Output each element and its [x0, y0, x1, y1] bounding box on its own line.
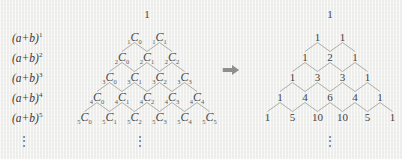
combination-cell: 2C2: [165, 50, 180, 65]
combination-cell: 4C2: [140, 90, 155, 105]
combination-cell: 3C2: [152, 70, 167, 85]
combination-r: 2: [164, 78, 167, 85]
combination-r: 0: [101, 98, 104, 105]
combination-cell: 3C3: [177, 70, 192, 85]
left-triangle-ellipsis: ⋮: [134, 135, 146, 147]
value-cell: 1: [365, 71, 371, 83]
value-cell: 3: [340, 71, 346, 83]
combination-cell: 4C4: [190, 90, 205, 105]
exponent-label-4: (a+b)4: [12, 92, 42, 104]
value-cell: 1: [265, 111, 271, 123]
value-cell: 5: [290, 111, 296, 123]
combination-r: 0: [139, 38, 142, 45]
exponent-label-3: (a+b)3: [12, 72, 42, 84]
combination-r: 5: [214, 118, 217, 125]
value-cell: 1: [302, 51, 308, 63]
combination-r: 4: [189, 118, 192, 125]
exponent-value: 4: [39, 91, 43, 99]
combination-r: 3: [164, 118, 167, 125]
combination-cell: 5C4: [177, 110, 192, 125]
exponent-value: 2: [39, 51, 43, 59]
combination-cell: 5C1: [102, 110, 117, 125]
combination-cell: 4C1: [115, 90, 130, 105]
value-cell: 1: [315, 31, 321, 43]
combination-cell: 2C0: [115, 50, 130, 65]
value-cell: 2: [327, 51, 333, 63]
combination-cell: 3C0: [102, 70, 117, 85]
combination-r: 0: [114, 78, 117, 85]
combination-cell: 5C0: [77, 110, 92, 125]
combination-cell: 5C2: [127, 110, 142, 125]
combination-cell: 5C3: [152, 110, 167, 125]
left-apex-value: 1: [144, 8, 150, 20]
combination-cell: 5C5: [202, 110, 217, 125]
value-cell: 1: [340, 31, 346, 43]
combination-r: 2: [176, 58, 179, 65]
exponent-value: 3: [39, 71, 43, 79]
right-apex-value: 1: [327, 8, 333, 20]
combination-r: 1: [126, 98, 129, 105]
combination-cell: 1C1: [152, 30, 167, 45]
combination-r: 2: [151, 98, 154, 105]
combination-r: 1: [139, 78, 142, 85]
value-cell: 5: [365, 111, 371, 123]
value-cell: 10: [337, 111, 348, 123]
value-cell: 4: [302, 91, 308, 103]
value-cell: 10: [312, 111, 323, 123]
combination-r: 1: [114, 118, 117, 125]
value-cell: 1: [352, 51, 358, 63]
combination-r: 3: [176, 98, 179, 105]
value-cell: 1: [390, 111, 396, 123]
exponent-label-2: (a+b)2: [12, 52, 42, 64]
value-cell: 1: [377, 91, 383, 103]
exponent-label-5: (a+b)5: [12, 112, 42, 124]
combination-cell: 3C1: [127, 70, 142, 85]
combination-r: 2: [139, 118, 142, 125]
figure-canvas: 1 (a+b)1 (a+b)2 (a+b)3 (a+b)4 (a+b)5 ⋮ 1…: [0, 0, 402, 159]
exponent-value: 5: [39, 111, 43, 119]
combination-r: 0: [89, 118, 92, 125]
combination-cell: 4C3: [165, 90, 180, 105]
exponent-value: 1: [39, 31, 43, 39]
value-cell: 1: [277, 91, 283, 103]
combination-r: 3: [189, 78, 192, 85]
value-cell: 6: [327, 91, 333, 103]
value-cell: 3: [315, 71, 321, 83]
right-block-arrow-icon: [223, 65, 240, 76]
combination-r: 1: [164, 38, 167, 45]
combination-cell: 2C1: [140, 50, 155, 65]
value-cell: 4: [352, 91, 358, 103]
right-triangle-ellipsis: ⋮: [324, 135, 336, 147]
exponent-label-1: (a+b)1: [12, 32, 42, 44]
combination-cell: 1C0: [127, 30, 142, 45]
value-cell: 1: [290, 71, 296, 83]
combination-r: 1: [151, 58, 154, 65]
exponent-column-ellipsis: ⋮: [18, 135, 30, 147]
combination-r: 4: [201, 98, 204, 105]
combination-r: 0: [126, 58, 129, 65]
combination-cell: 4C0: [90, 90, 105, 105]
